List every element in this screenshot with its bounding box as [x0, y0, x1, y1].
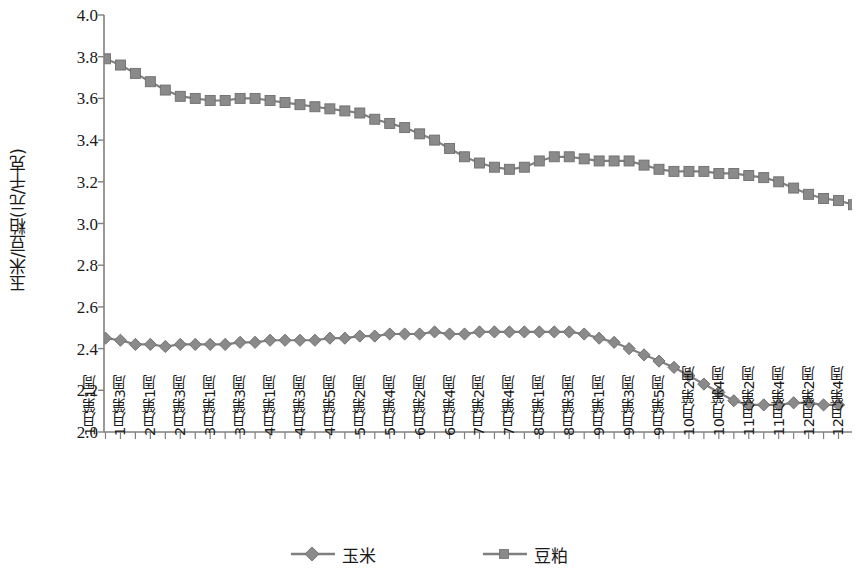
y-tick-label: 2.4	[42, 340, 98, 357]
legend-item-soybean-meal: 豆粕	[482, 542, 568, 567]
x-tick-label: 9月第5周	[652, 375, 667, 436]
chart-container: 玉米/豆粕(元/千克) 4.03.83.63.43.23.02.82.62.42…	[0, 0, 858, 568]
x-tick-label: 7月第2周	[473, 375, 488, 436]
x-tick-label: 12月第2周	[802, 366, 817, 436]
x-tick-label: 10月第4周	[712, 366, 727, 436]
series-canvas	[104, 15, 852, 432]
x-tick-label: 3月第3周	[233, 375, 248, 436]
x-tick-label: 5月第2周	[353, 375, 368, 436]
x-tick-label: 1月第3周	[114, 375, 129, 436]
y-tick-label: 3.6	[42, 90, 98, 107]
x-tick-label: 11月第4周	[772, 366, 787, 436]
y-axis-tick-labels: 4.03.83.63.43.23.02.82.62.42.22.0	[36, 0, 98, 440]
chart-legend: 玉米 豆粕	[0, 541, 858, 567]
x-tick-label: 4月第1周	[263, 375, 278, 436]
x-tick-label: 10月第2周	[682, 366, 697, 436]
x-tick-label: 9月第3周	[622, 375, 637, 436]
y-tick-label: 4.0	[42, 7, 98, 24]
x-tick-label: 2月第1周	[144, 375, 159, 436]
x-tick-label: 8月第3周	[562, 375, 577, 436]
legend-label-corn: 玉米	[342, 542, 376, 567]
x-tick-label: 3月第1周	[203, 375, 218, 436]
plot-area	[104, 15, 852, 432]
x-tick-label: 6月第4周	[443, 375, 458, 436]
x-tick-label: 1月第1周	[84, 375, 99, 436]
x-tick-label: 11月第2周	[742, 366, 757, 436]
x-tick-label: 4月第5周	[323, 375, 338, 436]
series-soybean-meal	[104, 54, 852, 212]
y-tick-label: 3.0	[42, 215, 98, 232]
y-tick-label: 3.2	[42, 173, 98, 190]
y-tick-label: 3.4	[42, 132, 98, 149]
x-tick-label: 4月第3周	[293, 375, 308, 436]
y-axis-title-text: 玉米/豆粕(元/千克)	[5, 148, 30, 292]
y-tick-label: 3.8	[42, 48, 98, 65]
x-tick-label: 9月第1周	[592, 375, 607, 436]
legend-label-soybean-meal: 豆粕	[534, 542, 568, 567]
x-tick-label: 12月第4周	[832, 366, 847, 436]
y-tick-label: 2.6	[42, 298, 98, 315]
x-tick-label: 8月第1周	[533, 375, 548, 436]
x-tick-label: 5月第4周	[383, 375, 398, 436]
y-axis-title: 玉米/豆粕(元/千克)	[2, 0, 32, 440]
legend-marker-diamond-icon	[290, 547, 336, 561]
y-tick-label: 2.8	[42, 257, 98, 274]
x-tick-label: 6月第2周	[413, 375, 428, 436]
x-tick-label: 7月第4周	[503, 375, 518, 436]
legend-item-corn: 玉米	[290, 542, 376, 567]
x-tick-label: 2月第3周	[173, 375, 188, 436]
legend-marker-square-icon	[482, 547, 528, 561]
x-axis-tick-labels: 1月第1周1月第3周2月第1周2月第3周3月第1周3月第3周4月第1周4月第3周…	[104, 436, 852, 536]
